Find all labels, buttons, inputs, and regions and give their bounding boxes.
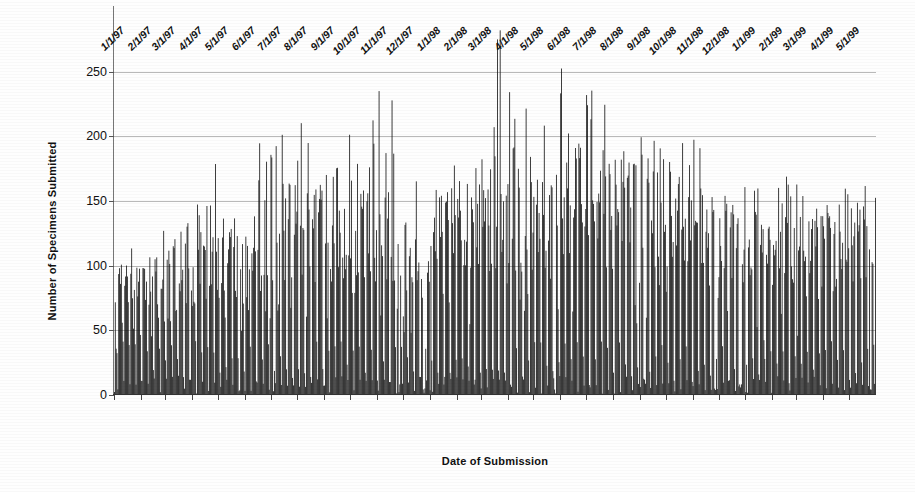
- bar: [556, 175, 557, 395]
- bar: [548, 241, 549, 395]
- bar: [797, 336, 798, 395]
- bar: [562, 218, 563, 395]
- bar: [283, 184, 284, 395]
- bar: [688, 197, 689, 395]
- bar: [418, 271, 419, 395]
- bar: [167, 260, 168, 395]
- x-tick-mark: [324, 395, 325, 400]
- bar: [289, 184, 290, 395]
- bar: [276, 146, 277, 395]
- bar: [834, 222, 835, 395]
- bar: [804, 261, 805, 395]
- bar: [543, 215, 544, 395]
- bar: [258, 180, 259, 395]
- bar: [192, 306, 193, 395]
- bar: [419, 377, 420, 395]
- bar: [174, 248, 175, 395]
- bar: [521, 263, 522, 395]
- bar: [357, 164, 358, 395]
- bar: [636, 323, 637, 395]
- bar: [393, 154, 394, 395]
- bar: [623, 151, 624, 395]
- bar: [473, 222, 474, 395]
- bar: [732, 278, 733, 395]
- bar: [154, 378, 155, 395]
- bar: [342, 258, 343, 395]
- bar: [476, 247, 477, 395]
- bar: [573, 218, 574, 395]
- bar: [505, 381, 506, 395]
- bar: [557, 226, 558, 395]
- bar: [119, 268, 120, 395]
- bar: [230, 237, 231, 395]
- bar: [649, 183, 650, 395]
- bar: [356, 275, 357, 395]
- bar: [866, 277, 867, 395]
- bar: [785, 217, 786, 395]
- bar: [569, 253, 570, 395]
- bar: [168, 319, 169, 395]
- bar: [513, 148, 514, 395]
- bar: [798, 250, 799, 395]
- bar: [841, 269, 842, 395]
- y-tick-label: 100: [86, 259, 107, 273]
- bar: [860, 278, 861, 395]
- bar: [291, 277, 292, 395]
- bar: [284, 231, 285, 395]
- bar: [349, 135, 350, 395]
- bar: [376, 230, 377, 395]
- bar: [767, 264, 768, 395]
- bar: [530, 157, 531, 395]
- bar: [722, 346, 723, 395]
- bar: [763, 229, 764, 395]
- bar: [742, 264, 743, 395]
- bar: [380, 214, 381, 395]
- bar: [873, 345, 874, 395]
- bar: [156, 257, 157, 395]
- bar: [757, 327, 758, 395]
- bar: [260, 291, 261, 395]
- bar: [712, 197, 713, 395]
- bar: [124, 286, 125, 395]
- bar: [213, 353, 214, 395]
- bar: [663, 159, 664, 395]
- bar: [441, 196, 442, 395]
- bar: [665, 225, 666, 395]
- bar: [131, 248, 132, 395]
- bar: [483, 190, 484, 395]
- bar: [279, 234, 280, 395]
- bar: [231, 229, 232, 395]
- bar: [240, 269, 241, 395]
- bar: [736, 248, 737, 395]
- bar: [661, 203, 662, 395]
- bar: [212, 252, 213, 395]
- bar: [312, 219, 313, 395]
- bar: [580, 148, 581, 395]
- bar: [499, 380, 500, 395]
- bar: [655, 356, 656, 395]
- bar: [448, 220, 449, 395]
- bar: [186, 303, 187, 395]
- bar: [450, 379, 451, 395]
- bar: [830, 228, 831, 395]
- bar: [166, 379, 167, 395]
- bar: [861, 362, 862, 395]
- bar: [822, 216, 823, 395]
- bar: [452, 223, 453, 395]
- bar: [428, 261, 429, 395]
- bar: [320, 185, 321, 395]
- bar: [202, 382, 203, 395]
- bar: [132, 298, 133, 395]
- bar: [211, 284, 212, 395]
- bar: [721, 261, 722, 395]
- bar: [866, 226, 867, 395]
- bar: [235, 291, 236, 395]
- bar: [332, 225, 333, 395]
- bar: [779, 268, 780, 395]
- bar: [122, 323, 123, 395]
- bar: [860, 210, 861, 395]
- bar: [367, 193, 368, 395]
- bar: [466, 242, 467, 395]
- bar: [827, 205, 828, 395]
- bar: [559, 362, 560, 395]
